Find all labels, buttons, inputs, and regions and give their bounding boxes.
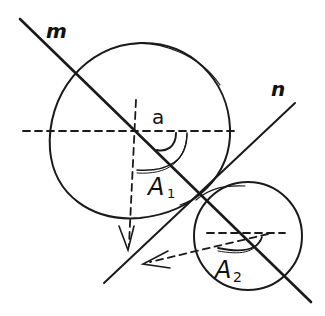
diagram-canvas: m n a A 1 A 2 — [0, 0, 325, 316]
label-a: a — [152, 105, 164, 129]
angle-arc-a — [157, 133, 176, 150]
line-m — [20, 19, 311, 302]
label-a1: A — [146, 173, 164, 201]
label-m: m — [46, 19, 67, 43]
label-a2: A — [213, 256, 231, 284]
label-a1-subscript: 1 — [167, 186, 175, 201]
down-arrow-head-icon — [119, 226, 134, 250]
dashed-vertical-axis — [129, 100, 136, 245]
label-n: n — [271, 77, 285, 101]
label-a2-subscript: 2 — [233, 269, 242, 285]
large-circle-overstroke — [130, 43, 220, 85]
small-circle — [194, 182, 302, 290]
left-arrow-head-icon — [143, 251, 170, 268]
